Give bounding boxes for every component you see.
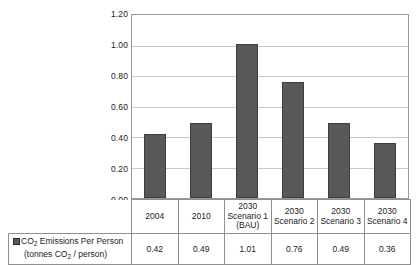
category-label-line: (BAU) (226, 221, 270, 231)
legend-text-units-prefix: (tonnes CO (24, 249, 67, 259)
legend-label-line2: (tonnes CO2 / person) (13, 249, 128, 262)
bar-chart-figure: 1.20 1.00 0.80 0.60 0.40 0.20 0.00 (0, 0, 420, 265)
value-cell-2030-scenario-1: 1.01 (225, 234, 272, 265)
y-axis-tick-label: 0.60 (98, 103, 128, 112)
bar-slot (224, 15, 270, 198)
plot-area (131, 14, 409, 199)
y-axis: 1.20 1.00 0.80 0.60 0.40 0.20 0.00 (98, 8, 128, 202)
category-cell-2030-scenario-4: 2030 Scenario 4 (364, 200, 411, 234)
legend-spacer-cell (9, 200, 132, 234)
bar-2004[interactable] (144, 134, 166, 198)
bar-slot (132, 15, 178, 198)
bar-2030-scenario-1-bau[interactable] (236, 44, 258, 198)
bar-2030-scenario-4[interactable] (374, 143, 396, 198)
category-cell-2030-scenario-2: 2030 Scenario 2 (271, 200, 318, 234)
bar-slot (316, 15, 362, 198)
y-axis-tick-label: 0.80 (98, 72, 128, 81)
bars-layer (132, 15, 408, 198)
bar-2010[interactable] (190, 123, 212, 198)
category-label-line: 2004 (133, 212, 177, 222)
legend-swatch-icon (13, 238, 20, 245)
legend-text-units-rest: / person) (71, 249, 107, 259)
bar-slot (362, 15, 408, 198)
bar-slot (270, 15, 316, 198)
legend-cell: CO2 Emissions Per Person (tonnes CO2 / p… (9, 234, 132, 265)
value-cell-2030-scenario-3: 0.49 (318, 234, 365, 265)
category-cell-2010: 2010 (178, 200, 225, 234)
table-row-values: CO2 Emissions Per Person (tonnes CO2 / p… (9, 234, 411, 265)
bar-2030-scenario-3[interactable] (328, 123, 350, 198)
value-cell-2030-scenario-2: 0.76 (271, 234, 318, 265)
category-cell-2030-scenario-3: 2030 Scenario 3 (318, 200, 365, 234)
y-axis-tick-label: 1.00 (98, 41, 128, 50)
y-axis-tick-label: 0.40 (98, 134, 128, 143)
legend-text-rest: Emissions Per Person (37, 236, 123, 246)
table-row-categories: 2004 2010 2030 Scenario 1 (BAU) 2030 Sce… (9, 200, 411, 234)
category-cell-2004: 2004 (132, 200, 179, 234)
y-axis-tick-label: 1.20 (98, 10, 128, 19)
category-label-line: Scenario 4 (366, 217, 410, 227)
category-cell-2030-scenario-1: 2030 Scenario 1 (BAU) (225, 200, 272, 234)
value-cell-2004: 0.42 (132, 234, 179, 265)
value-cell-2010: 0.49 (178, 234, 225, 265)
bar-slot (178, 15, 224, 198)
y-axis-tick-label: 0.20 (98, 165, 128, 174)
category-label-line: Scenario 3 (319, 217, 363, 227)
data-table: 2004 2010 2030 Scenario 1 (BAU) 2030 Sce… (8, 199, 411, 265)
value-cell-2030-scenario-4: 0.36 (364, 234, 411, 265)
category-label-line: Scenario 2 (273, 217, 317, 227)
legend-label-line1: CO2 Emissions Per Person (13, 236, 128, 249)
bar-2030-scenario-2[interactable] (282, 82, 304, 198)
category-label-line: 2010 (180, 212, 224, 222)
legend-text-co: CO (21, 236, 34, 246)
